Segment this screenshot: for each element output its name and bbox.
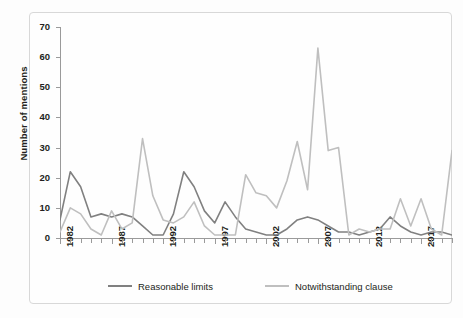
y-tick-label: 70 xyxy=(24,21,50,32)
y-tick-label: 40 xyxy=(24,111,50,122)
y-tick-label: 50 xyxy=(24,81,50,92)
x-tick-mark xyxy=(173,239,174,243)
x-tick-mark xyxy=(328,239,329,243)
x-tick-mark xyxy=(411,239,412,243)
x-tick-mark-major xyxy=(163,239,164,244)
x-tick-mark-major xyxy=(318,239,319,244)
chart-legend: Reasonable limitsNotwithstanding clause xyxy=(60,279,440,295)
line-series-group xyxy=(60,27,452,238)
x-tick-mark xyxy=(390,239,391,243)
x-tick-mark-major xyxy=(60,239,61,244)
series-line xyxy=(60,48,452,235)
x-tick-mark xyxy=(122,239,123,243)
y-tick-label: 0 xyxy=(24,232,50,243)
x-tick-mark xyxy=(339,239,340,243)
x-tick-mark xyxy=(81,239,82,243)
x-tick-mark xyxy=(235,239,236,243)
chart-figure: Number of mentions 010203040506070 19821… xyxy=(0,0,463,318)
legend-label: Notwithstanding clause xyxy=(295,281,393,292)
x-tick-mark xyxy=(442,239,443,243)
plot-area xyxy=(60,27,452,238)
x-tick-mark xyxy=(297,239,298,243)
x-tick-mark xyxy=(380,239,381,243)
x-tick-mark xyxy=(246,239,247,243)
x-tick-mark-major xyxy=(421,239,422,244)
x-tick-mark-major xyxy=(369,239,370,244)
x-tick-mark xyxy=(400,239,401,243)
x-tick-mark xyxy=(143,239,144,243)
y-tick-label: 60 xyxy=(24,51,50,62)
y-tick-label: 20 xyxy=(24,172,50,183)
x-tick-mark xyxy=(359,239,360,243)
x-tick-mark-major xyxy=(215,239,216,244)
legend-item[interactable]: Notwithstanding clause xyxy=(265,279,393,293)
x-tick-mark xyxy=(225,239,226,243)
x-tick-mark xyxy=(256,239,257,243)
x-tick-mark xyxy=(349,239,350,243)
x-tick-mark xyxy=(194,239,195,243)
y-tick-label: 30 xyxy=(24,142,50,153)
x-tick-mark xyxy=(91,239,92,243)
x-tick-mark xyxy=(277,239,278,243)
legend-swatch-icon xyxy=(108,285,132,287)
x-tick-mark xyxy=(287,239,288,243)
x-tick-mark xyxy=(452,239,453,243)
x-tick-mark xyxy=(70,239,71,243)
x-tick-mark xyxy=(101,239,102,243)
x-tick-mark xyxy=(308,239,309,243)
x-tick-mark xyxy=(184,239,185,243)
x-tick-mark-major xyxy=(112,239,113,244)
legend-label: Reasonable limits xyxy=(138,281,213,292)
legend-swatch-icon xyxy=(265,285,289,287)
y-tick-label: 10 xyxy=(24,202,50,213)
x-tick-mark xyxy=(431,239,432,243)
x-tick-mark-major xyxy=(266,239,267,244)
x-tick-mark xyxy=(132,239,133,243)
x-tick-mark xyxy=(153,239,154,243)
series-line xyxy=(60,172,452,235)
x-tick-mark xyxy=(204,239,205,243)
legend-item[interactable]: Reasonable limits xyxy=(108,279,213,293)
